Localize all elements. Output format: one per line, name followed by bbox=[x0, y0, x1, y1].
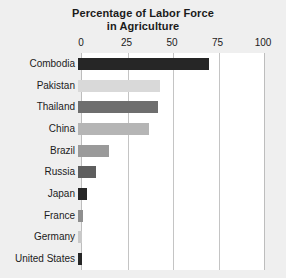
chart-row: Russia bbox=[0, 162, 286, 184]
category-label: Pakistan bbox=[0, 80, 78, 92]
bar-track bbox=[78, 248, 286, 270]
bar-track bbox=[78, 205, 286, 227]
category-label: China bbox=[0, 123, 78, 135]
bar-chart: Percentage of Labor Force in Agriculture… bbox=[0, 0, 286, 278]
x-axis-tick-labels: 0255075100 bbox=[0, 37, 286, 51]
chart-title-line-2: in Agriculture bbox=[0, 20, 286, 33]
chart-title: Percentage of Labor Force in Agriculture bbox=[0, 7, 286, 33]
x-tick-label: 50 bbox=[166, 37, 177, 49]
bar bbox=[78, 58, 209, 70]
bar bbox=[78, 188, 87, 200]
bar-track bbox=[78, 96, 286, 118]
chart-row: Japan bbox=[0, 183, 286, 205]
bar bbox=[78, 123, 149, 135]
bar-track bbox=[78, 75, 286, 97]
category-label: Brazil bbox=[0, 145, 78, 157]
bar-track bbox=[78, 140, 286, 162]
chart-row: Pakistan bbox=[0, 75, 286, 97]
chart-row: France bbox=[0, 205, 286, 227]
x-tick-label: 100 bbox=[255, 37, 272, 49]
category-label: Germany bbox=[0, 231, 78, 243]
chart-row: Brazil bbox=[0, 140, 286, 162]
x-tick-label: 25 bbox=[121, 37, 132, 49]
category-label: Combodia bbox=[0, 58, 78, 70]
bar-track bbox=[78, 183, 286, 205]
chart-title-line-1: Percentage of Labor Force bbox=[0, 7, 286, 20]
bar bbox=[78, 101, 158, 113]
chart-row: Germany bbox=[0, 227, 286, 249]
bar bbox=[78, 210, 83, 222]
bar-track bbox=[78, 227, 286, 249]
bar bbox=[78, 166, 96, 178]
x-tick-label: 0 bbox=[78, 37, 84, 49]
category-label: United States bbox=[0, 253, 78, 265]
category-label: Thailand bbox=[0, 101, 78, 113]
bar bbox=[78, 145, 109, 157]
chart-row: Thailand bbox=[0, 96, 286, 118]
bar bbox=[78, 253, 82, 265]
bar-track bbox=[78, 53, 286, 75]
x-tick-label: 75 bbox=[212, 37, 223, 49]
chart-row: Combodia bbox=[0, 53, 286, 75]
bar bbox=[78, 231, 82, 243]
chart-row: China bbox=[0, 118, 286, 140]
category-label: France bbox=[0, 210, 78, 222]
category-label: Russia bbox=[0, 166, 78, 178]
bar bbox=[78, 80, 160, 92]
bar-track bbox=[78, 162, 286, 184]
bar-track bbox=[78, 118, 286, 140]
chart-rows: CombodiaPakistanThailandChinaBrazilRussi… bbox=[0, 53, 286, 270]
category-label: Japan bbox=[0, 188, 78, 200]
chart-row: United States bbox=[0, 248, 286, 270]
